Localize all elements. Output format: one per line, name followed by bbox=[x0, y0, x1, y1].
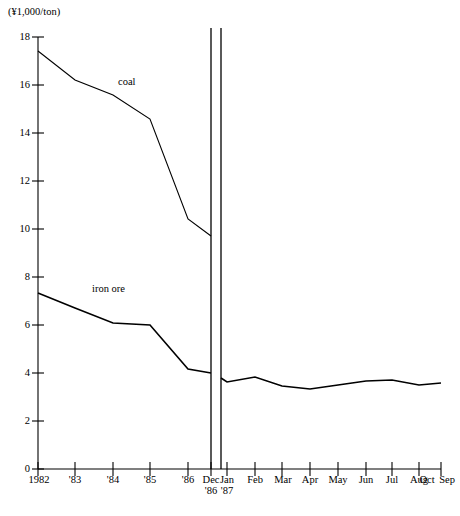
axis-break-lines bbox=[211, 28, 221, 469]
series-line-coal bbox=[38, 51, 211, 236]
series-line-iron-ore-annual bbox=[38, 293, 211, 373]
series-line-iron-ore-monthly bbox=[221, 377, 441, 389]
